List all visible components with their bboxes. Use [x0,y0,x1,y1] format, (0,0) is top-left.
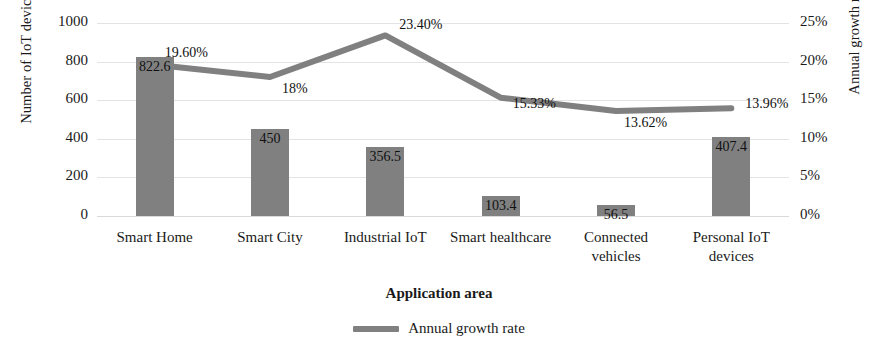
annual-growth-rate-line [155,35,732,111]
bar-value-label-0: 822.6 [120,59,190,75]
y-tick-left-0: 0 [81,206,89,223]
x-axis-title: Application area [0,285,878,302]
y-tick-left-1000: 1000 [58,13,88,30]
chart-legend: Annual growth rate [0,320,878,337]
axis-baseline [97,216,789,217]
bar-value-label-2: 356.5 [350,149,420,165]
bar-value-label-4: 56.5 [581,207,651,223]
category-label-smart-city: Smart City [213,228,327,247]
bar-value-label-1: 450 [235,131,305,147]
y-tick-right-15%: 15% [800,90,828,107]
y-tick-left-200: 200 [66,167,89,184]
iot-devices-growth-chart: Number of IoT devices (millions) Annual … [0,0,878,351]
bar-value-label-3: 103.4 [466,198,536,214]
line-value-label-0: 19.60% [165,45,208,61]
y-tick-right-0%: 0% [800,206,820,223]
y-tick-right-10%: 10% [800,129,828,146]
category-label-smart-home: Smart Home [98,228,212,247]
category-label-personal-iot-devices: Personal IoT devices [674,228,788,266]
category-label-industrial-iot: Industrial IoT [328,228,442,247]
line-value-label-5: 13.96% [745,96,788,112]
line-value-label-2: 23.40% [399,17,442,33]
y-axis-title-left: Number of IoT devices (millions) [18,0,35,141]
legend-line-swatch [353,326,399,332]
category-label-smart-healthcare: Smart healthcare [444,228,558,247]
line-value-label-1: 18% [282,81,308,97]
category-label-connected-vehicles: Connected vehicles [559,228,673,266]
y-axis-title-right: Annual growth rate (%) [846,0,863,141]
y-tick-right-20%: 20% [800,52,828,69]
line-value-label-3: 15.33% [513,96,556,112]
y-tick-left-400: 400 [66,129,89,146]
y-tick-left-800: 800 [66,52,89,69]
line-value-label-4: 13.62% [624,115,667,131]
y-tick-right-25%: 25% [800,13,828,30]
y-tick-right-5%: 5% [800,167,820,184]
y-tick-left-600: 600 [66,90,89,107]
legend-label-annual-growth-rate: Annual growth rate [408,320,525,337]
bar-value-label-5: 407.4 [696,139,766,155]
